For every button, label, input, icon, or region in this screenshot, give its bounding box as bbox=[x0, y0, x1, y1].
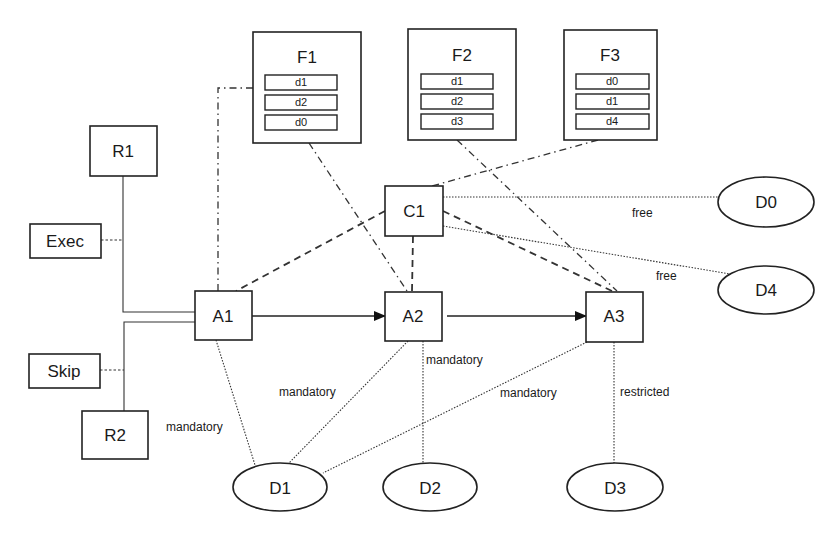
node-a3-label: A3 bbox=[604, 307, 625, 326]
container-f1-title: F1 bbox=[297, 48, 317, 67]
f2-item: d2 bbox=[451, 95, 463, 107]
container-f2-title: F2 bbox=[452, 46, 472, 65]
node-d3-label: D3 bbox=[604, 479, 626, 498]
edge-f3-c1 bbox=[432, 140, 598, 186]
node-skip-label: Skip bbox=[47, 362, 80, 381]
f2-item: d1 bbox=[451, 75, 463, 87]
node-d3[interactable]: D3 bbox=[567, 463, 663, 511]
edge-label-a1-d1: mandatory bbox=[166, 420, 223, 434]
node-r2[interactable]: R2 bbox=[82, 411, 148, 459]
edge-c1-a1 bbox=[236, 211, 385, 291]
edges bbox=[100, 88, 730, 473]
f3-item: d4 bbox=[606, 115, 618, 127]
node-d0-label: D0 bbox=[755, 193, 777, 212]
node-a3[interactable]: A3 bbox=[586, 292, 643, 342]
edge-r2-a1 bbox=[124, 322, 195, 411]
edge-label-a2-d2: mandatory bbox=[426, 353, 483, 367]
node-c1-label: C1 bbox=[403, 202, 425, 221]
node-d0[interactable]: D0 bbox=[718, 177, 814, 227]
container-f2[interactable]: F2 d1 d2 d3 bbox=[408, 29, 516, 140]
f1-item: d2 bbox=[295, 96, 307, 108]
node-r1[interactable]: R1 bbox=[90, 126, 157, 176]
edge-a2-d1 bbox=[289, 341, 408, 463]
node-d4-label: D4 bbox=[755, 281, 777, 300]
container-f1[interactable]: F1 d1 d2 d0 bbox=[253, 32, 361, 143]
edge-label-a3-d1: mandatory bbox=[500, 386, 557, 400]
edge-c1-d4 bbox=[443, 226, 730, 274]
node-skip[interactable]: Skip bbox=[29, 354, 100, 388]
diagram-canvas: free free mandatory mandatory mandatory … bbox=[0, 0, 840, 536]
node-d2[interactable]: D2 bbox=[383, 463, 477, 511]
edge-label-a3-d3: restricted bbox=[620, 385, 669, 399]
node-c1[interactable]: C1 bbox=[385, 186, 443, 236]
edge-a1-d1 bbox=[216, 340, 255, 465]
f1-item: d0 bbox=[295, 116, 307, 128]
node-d4[interactable]: D4 bbox=[718, 266, 814, 314]
edge-r1-a1 bbox=[123, 176, 195, 312]
edge-f1-a1 bbox=[218, 88, 253, 291]
node-d1-label: D1 bbox=[269, 479, 291, 498]
f3-item: d1 bbox=[606, 95, 618, 107]
node-a1[interactable]: A1 bbox=[195, 291, 252, 340]
edge-c1-a3 bbox=[443, 211, 612, 291]
node-a2-label: A2 bbox=[403, 307, 424, 326]
f1-item: d1 bbox=[295, 76, 307, 88]
node-a1-label: A1 bbox=[213, 307, 234, 326]
edge-f2-a3 bbox=[457, 140, 617, 291]
container-f3[interactable]: F3 d0 d1 d4 bbox=[564, 30, 657, 140]
node-a2[interactable]: A2 bbox=[385, 292, 442, 341]
edge-c1-a2 bbox=[412, 236, 413, 291]
container-f3-title: F3 bbox=[600, 46, 620, 65]
f2-item: d3 bbox=[451, 115, 463, 127]
node-exec-label: Exec bbox=[46, 232, 84, 251]
node-d2-label: D2 bbox=[419, 479, 441, 498]
node-r2-label: R2 bbox=[104, 426, 126, 445]
edge-label-c1-d0: free bbox=[632, 206, 653, 220]
f3-item: d0 bbox=[606, 75, 618, 87]
edge-label-c1-d4: free bbox=[656, 269, 677, 283]
edge-label-a2-d1: mandatory bbox=[279, 385, 336, 399]
node-d1[interactable]: D1 bbox=[233, 463, 327, 511]
diagram-svg: free free mandatory mandatory mandatory … bbox=[0, 0, 840, 536]
node-r1-label: R1 bbox=[112, 142, 134, 161]
node-exec[interactable]: Exec bbox=[30, 224, 101, 258]
